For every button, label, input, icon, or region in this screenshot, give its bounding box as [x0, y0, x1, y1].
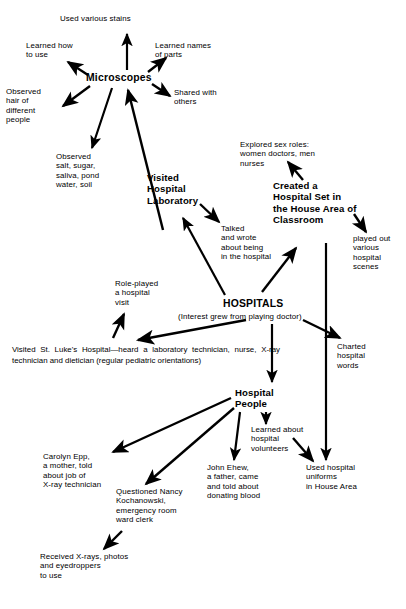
- edge-microscopes-to-observed-hair: [63, 86, 90, 106]
- edge-people-to-carolyn-epp: [113, 398, 231, 452]
- edge-microscopes-to-shared-with-others: [152, 84, 170, 96]
- node-learned-names-of-parts: Learned names of parts: [155, 41, 211, 60]
- node-learned-how-to-use: Learned how to use: [26, 41, 73, 60]
- edge-microscopes-to-names-of-parts: [148, 58, 166, 72]
- concept-map-diagram: Used various stains Learned how to use L…: [0, 0, 406, 609]
- node-visited-st-lukes: Visited St. Luke's Hospital—heard a labo…: [12, 344, 280, 366]
- node-shared-with-others: Shared with others: [174, 88, 217, 107]
- edge-microscopes-to-observed-salt: [92, 88, 112, 148]
- node-talked-and-wrote: Talked and wrote about being in the hosp…: [221, 224, 271, 261]
- edge-hospitals-to-laboratory: [183, 218, 225, 295]
- node-hospitals-subtitle: (Interest grew from playing doctor): [178, 312, 302, 321]
- node-visited-hospital-laboratory: Visited Hospital Laboratory: [147, 172, 198, 206]
- node-observed-hair: Observed hair of different people: [6, 87, 41, 124]
- node-microscopes: Microscopes: [86, 72, 152, 84]
- node-used-hospital-uniforms: Used hospital uniforms in House Area: [306, 463, 357, 491]
- edge-microscopes-to-learned-how: [68, 62, 88, 75]
- node-charted-hospital-words: Charted hospital words: [337, 342, 366, 370]
- node-received-xrays: Received X-rays, photos and eyedroppers …: [40, 552, 128, 580]
- node-used-various-stains: Used various stains: [60, 14, 131, 23]
- node-learned-about-volunteers: Learned about hospital volunteers: [251, 425, 303, 453]
- edge-nancy-to-received-xrays: [104, 531, 122, 549]
- edge-st-lukes-to-role-played: [113, 314, 124, 338]
- node-explored-sex-roles: Explored sex roles: women doctors, men n…: [240, 140, 315, 168]
- node-created-hospital-set: Created a Hospital Set in the House Area…: [273, 180, 356, 225]
- node-carolyn-epp: Carolyn Epp, a mother, told about job of…: [43, 452, 101, 489]
- edge-people-to-john-ehew: [234, 412, 240, 460]
- node-john-ehew: John Ehew, a father, came and told about…: [207, 463, 260, 500]
- node-questioned-nancy: Questioned Nancy Kochanowski, emergency …: [116, 487, 183, 524]
- node-hospitals: HOSPITALS: [223, 298, 284, 310]
- node-role-played-visit: Role-played a hospital visit: [115, 279, 158, 307]
- edge-hospitals-to-microscopes: [128, 90, 163, 230]
- edge-laboratory-to-thinking: [200, 204, 219, 222]
- edge-hospitals-to-charted-words: [303, 320, 340, 338]
- node-hospital-people: Hospital People: [235, 387, 274, 410]
- node-played-out-scenes: played out various hospital scenes: [353, 234, 390, 271]
- edge-hospitals-to-st-lukes: [138, 320, 246, 340]
- node-observed-salt: Observed salt, sugar, saliva, pond water…: [56, 152, 99, 189]
